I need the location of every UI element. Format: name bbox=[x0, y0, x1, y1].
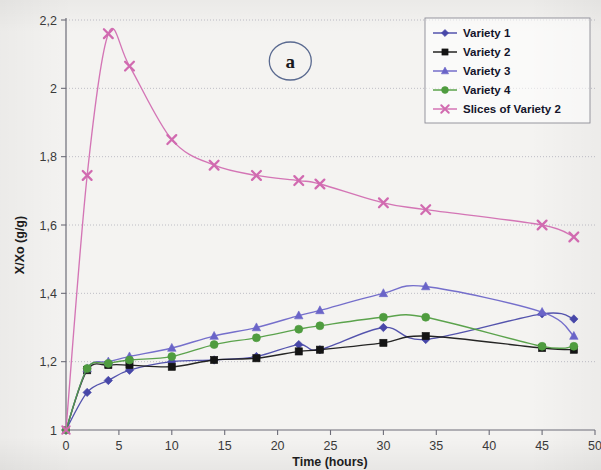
legend-item-label: Slices of Variety 2 bbox=[463, 103, 561, 115]
x-tick-label: 25 bbox=[324, 439, 338, 453]
y-axis-ticks: 11,21,41,61,822,2 bbox=[40, 14, 66, 438]
chart-legend: Variety 1Variety 2Variety 3Variety 4Slic… bbox=[425, 18, 590, 123]
data-point-marker-diamond bbox=[104, 376, 112, 384]
data-point-marker-x bbox=[210, 161, 219, 170]
y-tick-label: 1,4 bbox=[40, 287, 57, 301]
data-point-marker-square bbox=[295, 348, 302, 355]
y-tick-label: 1 bbox=[50, 424, 57, 438]
data-point-marker-circle bbox=[316, 322, 324, 330]
x-tick-label: 0 bbox=[63, 439, 70, 453]
x-tick-label: 5 bbox=[115, 439, 122, 453]
x-tick-label: 35 bbox=[429, 439, 443, 453]
data-point-marker-x bbox=[167, 135, 176, 144]
series-4 bbox=[63, 313, 578, 433]
data-point-marker-square bbox=[168, 363, 175, 370]
panel-annotation: a bbox=[269, 42, 311, 80]
series-line bbox=[66, 313, 574, 430]
data-point-marker-circle bbox=[104, 359, 112, 367]
data-point-marker-circle bbox=[210, 341, 218, 349]
data-point-marker-circle bbox=[125, 356, 133, 364]
x-tick-label: 20 bbox=[271, 439, 285, 453]
data-point-marker-x bbox=[125, 62, 134, 71]
data-point-marker-square bbox=[253, 355, 260, 362]
data-point-marker-circle bbox=[538, 342, 546, 350]
data-point-marker-circle bbox=[570, 342, 578, 350]
y-tick-label: 1,8 bbox=[40, 150, 57, 164]
series-3 bbox=[62, 282, 578, 433]
chart-figure: 11,21,41,61,822,2 05101520253035404550 a… bbox=[0, 0, 601, 470]
legend-item-label: Variety 3 bbox=[463, 65, 510, 77]
data-point-marker-circle bbox=[252, 334, 260, 342]
data-point-marker-diamond bbox=[570, 315, 578, 323]
data-point-marker-square bbox=[422, 332, 429, 339]
y-axis-title: X/Xo (g/g) bbox=[13, 216, 27, 274]
data-point-marker-circle bbox=[83, 365, 91, 373]
x-tick-label: 40 bbox=[482, 439, 496, 453]
y-tick-label: 2 bbox=[50, 82, 57, 96]
data-point-marker-square bbox=[380, 339, 387, 346]
y-tick-label: 1,6 bbox=[40, 219, 57, 233]
panel-label-text: a bbox=[286, 51, 296, 72]
data-point-marker-x bbox=[569, 233, 578, 242]
legend-item-label: Variety 4 bbox=[463, 84, 511, 96]
x-tick-label: 45 bbox=[535, 439, 549, 453]
data-point-marker-x bbox=[104, 29, 113, 38]
x-tick-label: 50 bbox=[588, 439, 601, 453]
data-point-marker-square bbox=[442, 49, 448, 55]
x-axis-title: Time (hours) bbox=[292, 455, 367, 469]
data-point-marker-x bbox=[316, 180, 325, 189]
data-point-marker-diamond bbox=[379, 323, 387, 331]
chart-canvas: 11,21,41,61,822,2 05101520253035404550 a… bbox=[0, 0, 601, 470]
data-point-marker-square bbox=[211, 356, 218, 363]
data-point-marker-square bbox=[316, 346, 323, 353]
x-tick-label: 10 bbox=[165, 439, 179, 453]
x-tick-label: 30 bbox=[376, 439, 390, 453]
data-point-marker-circle bbox=[442, 87, 449, 94]
legend-item-label: Variety 1 bbox=[463, 27, 511, 39]
series-2 bbox=[63, 332, 578, 433]
data-point-marker-circle bbox=[295, 325, 303, 333]
y-tick-label: 1,2 bbox=[40, 355, 57, 369]
data-point-marker-circle bbox=[379, 313, 387, 321]
x-axis-ticks: 05101520253035404550 bbox=[63, 430, 601, 453]
y-tick-label: 2,2 bbox=[40, 14, 57, 28]
series-line bbox=[66, 315, 574, 430]
legend-item-label: Variety 2 bbox=[463, 46, 510, 58]
data-point-marker-circle bbox=[168, 353, 176, 361]
data-point-marker-x bbox=[379, 198, 388, 207]
x-tick-label: 15 bbox=[218, 439, 232, 453]
data-point-marker-circle bbox=[422, 313, 430, 321]
